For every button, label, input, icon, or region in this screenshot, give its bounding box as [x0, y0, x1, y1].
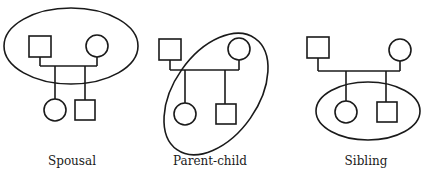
male-child-square: [216, 104, 236, 124]
parent-child-ellipse: [143, 14, 290, 174]
female-child-circle: [44, 99, 66, 121]
female-child-circle: [174, 103, 196, 125]
panel-parent-child: [143, 14, 290, 174]
parent-child-label: Parent-child: [150, 154, 270, 168]
panel-sibling: [307, 37, 420, 140]
male-child-square: [75, 100, 95, 120]
panel-spousal: [4, 8, 138, 121]
male-child-square: [377, 102, 397, 122]
spousal-label: Spousal: [12, 154, 132, 168]
male-parent-square: [307, 37, 329, 58]
sibling-label: Sibling: [306, 154, 421, 168]
sibling-ellipse: [316, 82, 420, 140]
female-parent-circle: [86, 35, 108, 57]
kinship-diagram: [0, 0, 421, 175]
female-child-circle: [335, 101, 357, 123]
male-parent-square: [159, 39, 181, 60]
male-parent-square: [29, 36, 51, 57]
female-parent-circle: [228, 38, 250, 60]
spousal-ellipse: [4, 8, 138, 84]
female-parent-circle: [389, 39, 411, 61]
